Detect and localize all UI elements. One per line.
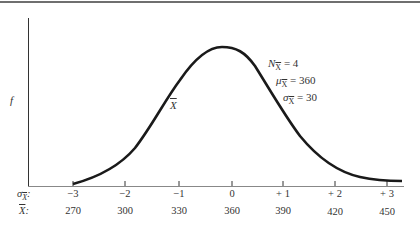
- y-axis-label: f: [10, 94, 13, 106]
- xbar-tick-label: 390: [275, 205, 291, 216]
- row-label-sigma: σX:: [17, 188, 31, 199]
- sigma-tick-label: −2: [119, 188, 130, 199]
- curve-label: X: [170, 99, 177, 111]
- sigma-tick-label: + 2: [328, 188, 342, 199]
- chart-plot: [0, 0, 420, 230]
- xbar-tick-label: 270: [65, 205, 81, 216]
- xbar-tick-label: 360: [224, 205, 240, 216]
- sd-value: = 30: [294, 91, 317, 103]
- annotation-sd: σX = 30: [283, 91, 317, 103]
- annotation-mean: μX = 360: [276, 74, 316, 86]
- x-axis-ticks: [73, 181, 387, 186]
- mu-symbol: μ: [276, 74, 282, 86]
- sigma-subscript: X: [288, 97, 294, 106]
- sigma-tick-label: −3: [67, 188, 78, 199]
- xbar-tick-label: 450: [379, 206, 395, 217]
- annotation-n: NX = 4: [268, 57, 298, 69]
- xbar-tick-label: 300: [117, 205, 133, 216]
- n-value: = 4: [281, 57, 298, 69]
- xbar-tick-label: 330: [171, 205, 187, 216]
- xbar-tick-label: 420: [327, 206, 343, 217]
- distribution-curve: [73, 47, 402, 184]
- mu-value: = 360: [287, 74, 315, 86]
- sigma-tick-label: + 3: [380, 188, 394, 199]
- sigma-tick-label: + 1: [276, 188, 290, 199]
- row-label-xbar: X:: [19, 205, 29, 216]
- sigma-tick-label: 0: [229, 188, 234, 199]
- sigma-tick-label: −1: [173, 188, 184, 199]
- n-subscript: X: [275, 63, 281, 72]
- mu-subscript: X: [282, 80, 288, 89]
